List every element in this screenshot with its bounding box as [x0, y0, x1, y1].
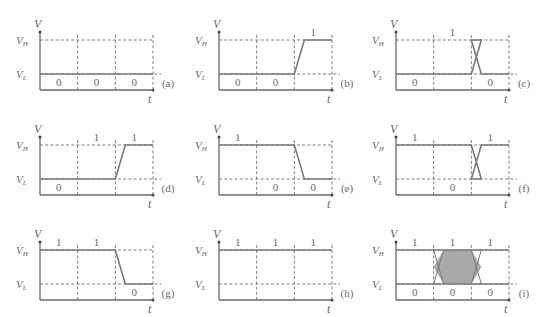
panel-d: VtVHVL(d)011: [16, 122, 175, 211]
vl-label: VL: [372, 68, 383, 82]
panel-tag: (i): [519, 287, 530, 300]
vh-label: VH: [195, 139, 208, 153]
vh-label: VH: [16, 244, 29, 258]
panel-f: VtVHVL(f)101: [372, 122, 530, 211]
vh-label: VH: [195, 244, 208, 258]
bit-label: 0: [310, 181, 316, 193]
bit-label: 1: [487, 131, 493, 143]
panel-tag: (a): [162, 77, 175, 90]
bit-label: 1: [450, 236, 456, 248]
bit-label: 1: [487, 236, 493, 248]
panel-tag: (d): [162, 182, 175, 195]
bit-label: 1: [235, 131, 241, 143]
t-axis-label: t: [148, 302, 152, 316]
vh-label: VH: [195, 34, 208, 48]
bit-label: 1: [235, 236, 241, 248]
diagram-root: VtVHVL(a)000VtVHVL(b)001VtVHVL(c)010VtVH…: [0, 0, 536, 317]
v-axis-label: V: [390, 227, 399, 241]
vh-label: VH: [372, 244, 385, 258]
bit-label: 0: [56, 181, 62, 193]
v-axis-label: V: [213, 122, 222, 136]
panel-tag: (e): [341, 182, 354, 195]
t-axis-label: t: [504, 197, 508, 211]
vh-label: VH: [372, 139, 385, 153]
bit-label: 1: [131, 131, 137, 143]
panel-c: VtVHVL(c)010: [372, 17, 530, 106]
signal-waveform: [219, 40, 332, 74]
bit-label: 0: [412, 76, 418, 88]
signal-waveform: [219, 145, 332, 179]
bit-label: 0: [412, 286, 418, 298]
eye-shaded-region: [434, 250, 482, 284]
bit-label: 1: [450, 26, 456, 38]
bit-label: 0: [487, 76, 493, 88]
bit-label: 1: [412, 236, 418, 248]
vl-label: VL: [195, 68, 206, 82]
signal-waveform: [40, 250, 153, 284]
v-axis-label: V: [213, 17, 222, 31]
panel-tag: (h): [341, 287, 354, 300]
t-axis-label: t: [327, 92, 331, 106]
signal-waveform: [396, 145, 509, 179]
panel-h: VtVHVL(h)111: [195, 227, 354, 316]
v-axis-label: V: [213, 227, 222, 241]
t-axis-label: t: [327, 302, 331, 316]
vl-label: VL: [16, 68, 27, 82]
vh-label: VH: [372, 34, 385, 48]
panel-a: VtVHVL(a)000: [16, 17, 174, 106]
bit-label: 0: [131, 76, 137, 88]
bit-label: 0: [131, 286, 137, 298]
bit-label: 0: [273, 76, 279, 88]
vl-label: VL: [372, 173, 383, 187]
signal-waveform: [40, 145, 153, 179]
panel-tag: (c): [518, 77, 531, 90]
v-axis-label: V: [390, 17, 399, 31]
t-axis-label: t: [148, 92, 152, 106]
t-axis-label: t: [504, 302, 508, 316]
bit-label: 0: [56, 76, 62, 88]
v-axis-label: V: [390, 122, 399, 136]
bit-label: 1: [310, 236, 316, 248]
bit-label: 1: [94, 236, 100, 248]
vh-label: VH: [16, 34, 29, 48]
panel-i: VtVHVL(i)111000: [372, 227, 530, 316]
vl-label: VL: [372, 278, 383, 292]
vl-label: VL: [195, 173, 206, 187]
v-axis-label: V: [34, 122, 43, 136]
v-axis-label: V: [34, 17, 43, 31]
bit-label: 1: [94, 131, 100, 143]
bit-label: 1: [56, 236, 62, 248]
vh-label: VH: [16, 139, 29, 153]
v-axis-label: V: [34, 227, 43, 241]
bit-label: 0: [273, 181, 279, 193]
t-axis-label: t: [148, 197, 152, 211]
signal-diagrams: VtVHVL(a)000VtVHVL(b)001VtVHVL(c)010VtVH…: [0, 0, 536, 317]
panel-e: VtVHVL(e)100: [195, 122, 353, 211]
t-axis-label: t: [327, 197, 331, 211]
bit-label: 0: [450, 181, 456, 193]
bit-label: 0: [94, 76, 100, 88]
vl-label: VL: [195, 278, 206, 292]
bit-label: 1: [310, 26, 316, 38]
panel-b: VtVHVL(b)001: [195, 17, 354, 106]
panel-tag: (f): [519, 182, 530, 195]
bit-label: 1: [273, 236, 279, 248]
panel-tag: (b): [341, 77, 354, 90]
vl-label: VL: [16, 173, 27, 187]
bit-label: 1: [412, 131, 418, 143]
bit-label: 0: [487, 286, 493, 298]
t-axis-label: t: [504, 92, 508, 106]
panel-g: VtVHVL(g)110: [16, 227, 175, 316]
vl-label: VL: [16, 278, 27, 292]
panel-tag: (g): [162, 287, 175, 300]
signal-waveform: [396, 40, 509, 74]
bit-label: 0: [235, 76, 241, 88]
bit-label: 0: [450, 286, 456, 298]
